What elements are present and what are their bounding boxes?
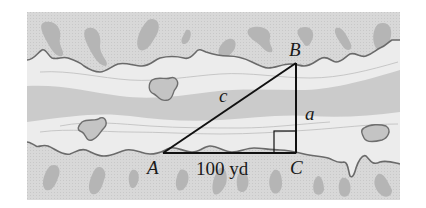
vertex-label-c: C [290, 158, 303, 177]
side-label-c: c [219, 86, 227, 105]
side-label-base-measurement: 100 yd [196, 159, 248, 178]
side-label-a: a [305, 104, 315, 123]
vertex-label-b: B [289, 40, 301, 59]
river-triangle-diagram: B A C c a 100 yd [0, 0, 426, 208]
vertex-label-a: A [147, 158, 159, 177]
